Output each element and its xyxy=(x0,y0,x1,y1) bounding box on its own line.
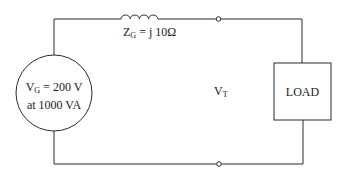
impedance-label: ZG = j 10Ω xyxy=(123,25,176,43)
terminal-bottom-icon xyxy=(217,162,222,167)
terminal-voltage-subscript: T xyxy=(223,90,228,99)
impedance-subscript: G xyxy=(130,31,136,40)
source-subscript: G xyxy=(34,86,40,95)
load-label: LOAD xyxy=(274,85,331,99)
inductor-icon xyxy=(121,15,158,19)
terminal-top-icon xyxy=(216,17,221,22)
source-label-line1: VG = 200 V xyxy=(20,80,88,98)
impedance-value: = j 10Ω xyxy=(139,25,176,39)
source-label-line2: at 1000 VA xyxy=(20,98,88,112)
terminal-voltage-symbol: V xyxy=(214,84,223,98)
source-label: VG = 200 V at 1000 VA xyxy=(20,80,88,112)
terminal-voltage-label: VT xyxy=(214,84,228,102)
source-value: = 200 V xyxy=(43,80,82,94)
